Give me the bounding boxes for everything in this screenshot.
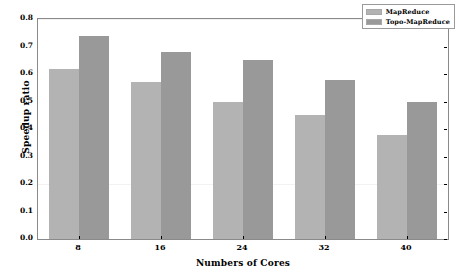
x-axis-title: Numbers of Cores (37, 258, 449, 268)
bar (213, 102, 243, 240)
y-axis-tick-label: 0.6 (11, 68, 33, 77)
bar (243, 60, 273, 239)
legend-swatch-icon (366, 19, 382, 25)
legend-item-topo-mapreduce: Topo-MapReduce (366, 17, 450, 26)
y-axis-tick (444, 184, 447, 185)
bar (161, 52, 191, 239)
legend-label: MapReduce (386, 8, 430, 16)
y-axis-tick (444, 129, 447, 130)
y-axis-tick-label: 0.5 (11, 96, 33, 105)
legend-label: Topo-MapReduce (386, 18, 450, 26)
y-axis-tick-label: 0.3 (11, 151, 33, 160)
x-axis-tick (79, 236, 80, 239)
y-axis-tick (444, 47, 447, 48)
y-axis-tick (444, 102, 447, 103)
y-axis-tick (444, 157, 447, 158)
x-axis-tick-label: 32 (304, 242, 344, 252)
x-axis-tick-label: 24 (222, 242, 262, 252)
bar (407, 102, 437, 240)
bar (131, 82, 161, 239)
y-axis-tick (444, 239, 447, 240)
y-axis-tick (444, 74, 447, 75)
bar (325, 80, 355, 240)
x-axis-tick-label: 40 (386, 242, 426, 252)
x-axis-tick (161, 236, 162, 239)
legend-swatch-icon (366, 9, 382, 15)
bar (79, 36, 109, 240)
y-axis-tick (444, 212, 447, 213)
y-axis-tick-label: 0.2 (11, 178, 33, 187)
y-axis-tick-label: 0.0 (11, 233, 33, 242)
bar (49, 69, 79, 240)
y-axis-tick-label: 0.4 (11, 123, 33, 132)
y-axis-tick-label: 0.8 (11, 13, 33, 22)
y-axis-tick-label: 0.7 (11, 41, 33, 50)
bar (295, 115, 325, 239)
x-axis-tick (243, 236, 244, 239)
x-axis-tick (325, 236, 326, 239)
legend-item-mapreduce: MapReduce (366, 7, 450, 16)
chart-legend: MapReduce Topo-MapReduce (362, 4, 455, 29)
plot-area (37, 18, 449, 240)
y-axis-tick-label: 0.1 (11, 206, 33, 215)
x-axis-tick-label: 16 (140, 242, 180, 252)
x-axis-tick-label: 8 (58, 242, 98, 252)
bar (377, 135, 407, 240)
bar-chart-figure: Speedup ratio Numbers of Cores MapReduce… (0, 0, 459, 276)
x-axis-tick (407, 236, 408, 239)
